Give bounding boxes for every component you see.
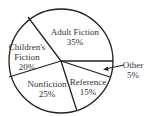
label-pct: 20%	[7, 62, 47, 72]
label-adult-fiction: Adult Fiction 35%	[50, 27, 100, 47]
label-name-2: Fiction	[7, 52, 47, 62]
label-name: Children's	[7, 42, 47, 52]
label-childrens-fiction: Children's Fiction 20%	[7, 42, 47, 72]
label-pct: 25%	[26, 89, 68, 99]
label-name: Other	[120, 60, 146, 70]
label-pct: 15%	[68, 87, 108, 97]
label-pct: 35%	[50, 37, 100, 47]
label-nonfiction: Nonfiction 25%	[26, 79, 68, 99]
label-name: Reference	[68, 77, 108, 87]
label-reference: Reference 15%	[68, 77, 108, 97]
label-pct: 5%	[120, 70, 146, 80]
label-other: Other 5%	[120, 60, 146, 80]
label-name: Adult Fiction	[50, 27, 100, 37]
label-name: Nonfiction	[26, 79, 68, 89]
